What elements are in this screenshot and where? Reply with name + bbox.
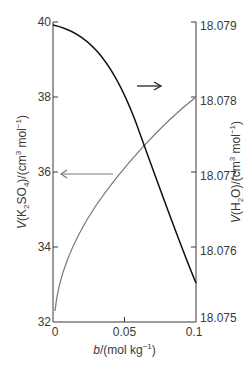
right-axis-title: V(H2O)/(cm3 mol−1) xyxy=(228,121,245,223)
left-tick-label: 34 xyxy=(38,240,52,254)
left-axis-title: V(K2SO4)/(cm3 mol−1) xyxy=(14,115,31,229)
left-tick-labels: 40 38 36 34 32 xyxy=(38,15,52,329)
left-tick-label: 36 xyxy=(38,165,52,179)
chart-canvas: 40 38 36 34 32 18.079 18.078 18.077 18.0… xyxy=(0,0,251,369)
axes xyxy=(53,22,196,322)
left-tick-label: 32 xyxy=(38,315,52,329)
bottom-tick-label: 0 xyxy=(52,325,59,339)
right-tick-label: 18.075 xyxy=(200,311,237,325)
right-arrow-annotation xyxy=(137,82,161,90)
bottom-tick-label: 0.05 xyxy=(113,325,137,339)
left-tick-label: 40 xyxy=(38,15,52,29)
bottom-tick-labels: 0 0.05 0.1 xyxy=(52,325,203,339)
bottom-tick-label: 0.1 xyxy=(186,325,203,339)
right-tick-label: 18.076 xyxy=(200,244,237,258)
left-arrow-annotation xyxy=(61,170,113,178)
right-tick-label: 18.078 xyxy=(200,94,237,108)
left-tick-label: 38 xyxy=(38,90,52,104)
k2so4-curve xyxy=(55,97,196,311)
x-axis-title: b/(mol kg−1) xyxy=(93,342,156,357)
right-tick-label: 18.079 xyxy=(200,19,237,33)
